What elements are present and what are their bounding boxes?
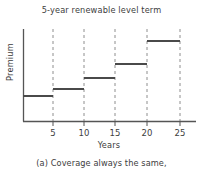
gridlines bbox=[53, 29, 180, 121]
x-tick-labels: 5 10 15 20 25 bbox=[50, 128, 185, 138]
x-tick-marks bbox=[53, 122, 180, 127]
x-tick-label-20: 20 bbox=[142, 128, 153, 138]
y-axis-label: Premium bbox=[5, 40, 15, 84]
figure-caption: (a) Coverage always the same, bbox=[0, 158, 203, 168]
x-axis-label: Years bbox=[23, 140, 195, 150]
x-tick-label-5: 5 bbox=[50, 128, 55, 138]
figure-renewable-level-term: 5-year renewable level term bbox=[0, 0, 203, 171]
x-tick-label-25: 25 bbox=[175, 128, 186, 138]
axes bbox=[23, 29, 196, 122]
x-tick-label-15: 15 bbox=[110, 128, 121, 138]
x-tick-label-10: 10 bbox=[79, 128, 90, 138]
step-series-premium bbox=[23, 41, 180, 96]
